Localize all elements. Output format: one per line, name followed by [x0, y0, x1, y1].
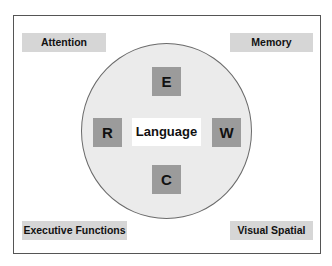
memory-label: Memory: [230, 33, 313, 52]
visual-spatial-label: Visual Spatial: [230, 221, 313, 240]
square-w: W: [212, 118, 241, 147]
language-label: Language: [132, 118, 201, 146]
square-r: R: [93, 118, 122, 147]
square-c: C: [152, 165, 181, 194]
square-e: E: [152, 67, 181, 96]
attention-label: Attention: [22, 33, 106, 52]
executive-functions-label: Executive Functions: [22, 221, 127, 240]
